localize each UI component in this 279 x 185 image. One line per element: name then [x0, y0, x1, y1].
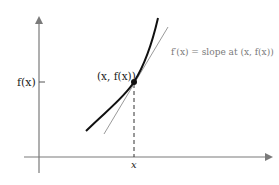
derivative-diagram: f(x) x (x, f(x)) f′(x) = slope at (x, f(… — [0, 0, 279, 185]
x-axis-label: x — [131, 159, 137, 170]
x-axis-arrow-icon — [265, 153, 273, 161]
y-axis-arrow-icon — [35, 16, 43, 24]
tangent-annotation: f′(x) = slope at (x, f(x)) — [171, 47, 274, 57]
point-label: (x, f(x)) — [97, 70, 136, 82]
y-axis-label: f(x) — [17, 76, 36, 89]
